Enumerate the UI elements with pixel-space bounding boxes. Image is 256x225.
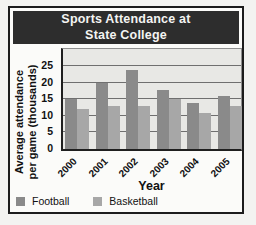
legend: Football Basketball (16, 195, 158, 207)
basketball-legend-swatch (93, 197, 102, 206)
y-tick-5: 5 (47, 125, 53, 137)
title-banner: Sports Attendance at State College (13, 11, 239, 44)
y-tick-10: 10 (41, 109, 53, 121)
chart-title-line2: State College (85, 28, 167, 44)
plot-area (61, 48, 242, 151)
basketball-legend-label: Basketball (109, 195, 157, 207)
y-axis-ticks: 0510152025 (10, 48, 57, 148)
y-tick-25: 25 (41, 59, 53, 71)
y-tick-15: 15 (41, 92, 53, 104)
bar-basketball-2004 (199, 113, 211, 149)
bar-basketball-2005 (230, 106, 242, 149)
gridline-10 (63, 115, 241, 116)
gridline-5 (63, 131, 241, 132)
bar-football-2002 (126, 70, 138, 149)
y-tick-20: 20 (41, 76, 53, 88)
bar-basketball-2002 (138, 106, 150, 149)
gridline-15 (63, 98, 241, 99)
football-legend-label: Football (32, 195, 69, 207)
bar-basketball-2001 (108, 106, 120, 149)
x-axis-label: Year (61, 179, 242, 193)
legend-item-basketball: Basketball (93, 195, 157, 207)
legend-item-football: Football (16, 195, 69, 207)
y-tick-0: 0 (47, 142, 53, 154)
chart-figure: Sports Attendance at State College Avera… (8, 6, 244, 214)
bar-football-2004 (187, 103, 199, 149)
bar-football-2003 (157, 90, 169, 149)
chart-title-line1: Sports Attendance at (61, 12, 190, 28)
gridline-20 (63, 82, 241, 83)
bar-football-2000 (65, 99, 77, 149)
bar-football-2001 (96, 83, 108, 149)
gridline-25 (63, 65, 241, 66)
football-legend-swatch (16, 197, 25, 206)
bar-basketball-2000 (77, 109, 89, 149)
bar-football-2005 (218, 96, 230, 149)
bar-basketball-2003 (169, 99, 181, 149)
